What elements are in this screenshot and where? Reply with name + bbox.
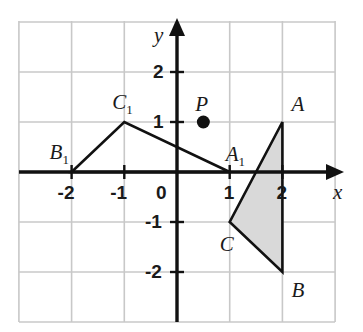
x-tick-label--2: -2 [58,183,75,202]
triangle-a1b1c1-outline [72,122,230,172]
x-tick-label-1: 1 [224,183,235,202]
vertex-label-c1-base: C [112,90,126,114]
coordinate-plane-figure: -2 -1 1 2 2 1 -1 -2 0 x y A B C P A1 B1 … [0,0,363,332]
y-axis-arrow-icon [169,18,185,36]
vertex-label-a: A [291,94,304,115]
vertex-label-c1-subscript: 1 [126,102,133,117]
y-tick-label-2: 2 [153,62,164,81]
vertex-label-a1-base: A [226,142,239,166]
point-p-marker [197,116,210,129]
x-tick-label--1: -1 [110,183,127,202]
vertex-label-b1-subscript: 1 [62,152,69,167]
y-tick-label--1: -1 [145,212,162,231]
y-tick-label--2: -2 [145,262,162,281]
origin-label: 0 [156,183,167,202]
vertex-label-b1: B1 [50,142,69,166]
point-label-p: P [195,94,208,115]
y-tick-label-1: 1 [153,112,164,131]
vertex-label-b1-base: B [50,140,63,164]
vertex-label-b: B [291,280,304,301]
vertex-label-c: C [220,234,234,255]
axes [19,18,344,322]
x-tick-label-2: 2 [276,183,287,202]
vertex-label-a1: A1 [226,144,245,168]
vertex-label-c1: C1 [112,92,133,116]
y-axis-label: y [154,25,163,46]
vertex-label-a1-subscript: 1 [239,154,246,169]
x-axis-label: x [333,182,342,203]
